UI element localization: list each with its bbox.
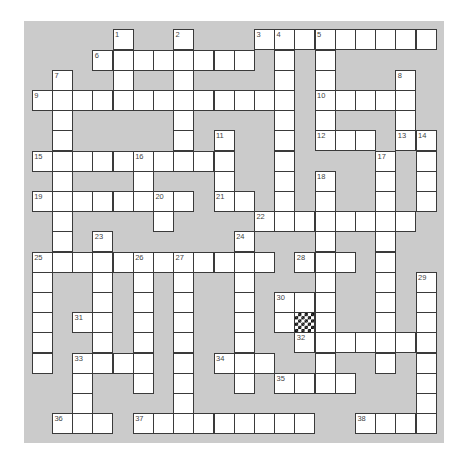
grid-cell[interactable] [173, 312, 194, 333]
grid-cell[interactable] [416, 332, 437, 353]
grid-cell[interactable]: 6 [92, 50, 113, 71]
grid-cell[interactable] [52, 191, 73, 212]
grid-cell[interactable]: 14 [416, 130, 437, 151]
grid-cell[interactable] [72, 191, 93, 212]
grid-cell[interactable] [113, 151, 134, 172]
grid-cell[interactable] [173, 50, 194, 71]
grid-cell[interactable] [52, 90, 73, 111]
grid-cell[interactable] [416, 292, 437, 313]
grid-cell[interactable] [395, 29, 416, 50]
grid-cell[interactable] [92, 151, 113, 172]
grid-cell[interactable]: 38 [355, 413, 376, 434]
grid-cell[interactable] [72, 252, 93, 273]
grid-cell[interactable]: 34 [214, 353, 235, 374]
grid-cell[interactable] [153, 90, 174, 111]
grid-cell[interactable] [274, 151, 295, 172]
grid-cell[interactable] [294, 373, 315, 394]
grid-cell[interactable] [92, 252, 113, 273]
grid-cell[interactable] [355, 332, 376, 353]
grid-cell[interactable] [294, 211, 315, 232]
grid-cell[interactable] [416, 353, 437, 374]
grid-cell[interactable] [395, 211, 416, 232]
grid-cell[interactable] [193, 90, 214, 111]
grid-cell[interactable]: 11 [214, 130, 235, 151]
grid-cell[interactable] [173, 191, 194, 212]
grid-cell[interactable] [133, 312, 154, 333]
grid-cell[interactable] [52, 130, 73, 151]
grid-cell[interactable] [153, 252, 174, 273]
grid-cell[interactable] [416, 151, 437, 172]
grid-cell[interactable]: 24 [234, 231, 255, 252]
grid-cell[interactable]: 7 [52, 70, 73, 91]
grid-cell[interactable] [234, 252, 255, 273]
grid-cell[interactable] [375, 272, 396, 293]
grid-cell[interactable] [234, 90, 255, 111]
grid-cell[interactable] [52, 231, 73, 252]
grid-cell[interactable] [52, 211, 73, 232]
grid-cell[interactable] [113, 90, 134, 111]
grid-cell[interactable] [193, 252, 214, 273]
grid-cell[interactable]: 31 [72, 312, 93, 333]
grid-cell[interactable] [133, 292, 154, 313]
grid-cell[interactable] [193, 50, 214, 71]
grid-cell[interactable]: 8 [395, 70, 416, 91]
grid-cell[interactable] [32, 353, 53, 374]
grid-cell[interactable] [315, 50, 336, 71]
grid-cell[interactable] [315, 292, 336, 313]
grid-cell[interactable] [375, 211, 396, 232]
grid-cell[interactable] [113, 50, 134, 71]
grid-cell[interactable]: 9 [32, 90, 53, 111]
grid-cell[interactable] [133, 272, 154, 293]
grid-cell[interactable] [173, 413, 194, 434]
grid-cell[interactable] [254, 252, 275, 273]
grid-cell[interactable] [355, 211, 376, 232]
grid-cell[interactable] [173, 70, 194, 91]
grid-cell[interactable] [395, 110, 416, 131]
grid-cell[interactable]: 36 [52, 413, 73, 434]
grid-cell[interactable]: 37 [133, 413, 154, 434]
grid-cell[interactable] [92, 332, 113, 353]
grid-cell[interactable] [214, 151, 235, 172]
grid-cell[interactable] [274, 130, 295, 151]
grid-cell[interactable] [355, 29, 376, 50]
grid-cell[interactable]: 4 [274, 29, 295, 50]
grid-cell[interactable] [234, 272, 255, 293]
grid-cell[interactable] [375, 332, 396, 353]
grid-cell[interactable] [416, 312, 437, 333]
grid-cell[interactable]: 20 [153, 191, 174, 212]
grid-cell[interactable]: 16 [133, 151, 154, 172]
grid-cell[interactable] [32, 332, 53, 353]
grid-cell[interactable] [375, 292, 396, 313]
grid-cell[interactable] [193, 151, 214, 172]
grid-cell[interactable] [113, 70, 134, 91]
grid-cell[interactable]: 29 [416, 272, 437, 293]
grid-cell[interactable] [173, 272, 194, 293]
grid-cell[interactable] [315, 70, 336, 91]
grid-cell[interactable] [335, 211, 356, 232]
grid-cell[interactable]: 32 [294, 332, 315, 353]
grid-cell[interactable]: 26 [133, 252, 154, 273]
grid-cell[interactable] [294, 29, 315, 50]
grid-cell[interactable] [315, 110, 336, 131]
grid-cell[interactable] [375, 252, 396, 273]
grid-cell[interactable] [416, 393, 437, 414]
grid-cell[interactable] [92, 272, 113, 293]
grid-cell[interactable] [335, 130, 356, 151]
grid-cell[interactable]: 30 [274, 292, 295, 313]
grid-cell[interactable] [133, 191, 154, 212]
grid-cell[interactable] [72, 373, 93, 394]
grid-cell[interactable] [32, 312, 53, 333]
grid-cell[interactable] [52, 171, 73, 192]
grid-cell[interactable] [234, 191, 255, 212]
grid-cell[interactable] [173, 332, 194, 353]
grid-cell[interactable]: 18 [315, 171, 336, 192]
grid-cell[interactable]: 19 [32, 191, 53, 212]
grid-cell[interactable] [193, 413, 214, 434]
grid-cell[interactable] [274, 312, 295, 333]
grid-cell[interactable] [335, 90, 356, 111]
grid-cell[interactable] [274, 90, 295, 111]
grid-cell[interactable] [133, 90, 154, 111]
grid-cell[interactable] [173, 292, 194, 313]
grid-cell[interactable] [153, 50, 174, 71]
grid-cell[interactable] [52, 252, 73, 273]
